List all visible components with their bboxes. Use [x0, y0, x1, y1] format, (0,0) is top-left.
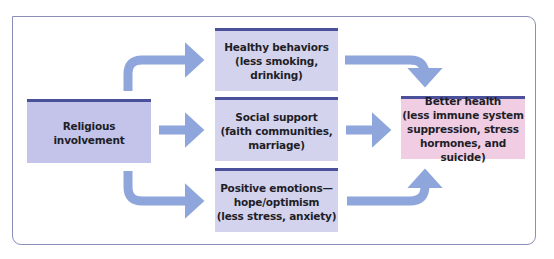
arrow-to-positive-emotions — [128, 171, 199, 201]
positive-emotions-box: Positive emotions— hope/optimism (less s… — [215, 168, 338, 232]
healthy-behaviors-label: Healthy behaviors (less smoking, drinkin… — [215, 40, 338, 82]
arrow-from-positive-emotions — [347, 174, 425, 201]
positive-emotions-label: Positive emotions— hope/optimism (less s… — [217, 181, 337, 223]
social-support-box: Social support (faith communities, marri… — [215, 97, 338, 161]
healthy-behaviors-box: Healthy behaviors (less smoking, drinkin… — [215, 28, 338, 91]
religious-involvement-label: Religious involvement — [27, 119, 151, 147]
religious-involvement-box: Religious involvement — [27, 99, 151, 163]
better-health-label: Better health (less immune system suppre… — [401, 94, 525, 164]
arrow-from-healthy-behaviors — [345, 60, 425, 82]
social-support-label: Social support (faith communities, marri… — [220, 110, 332, 152]
better-health-box: Better health (less immune system suppre… — [401, 96, 525, 159]
arrow-to-healthy-behaviors — [128, 60, 199, 91]
